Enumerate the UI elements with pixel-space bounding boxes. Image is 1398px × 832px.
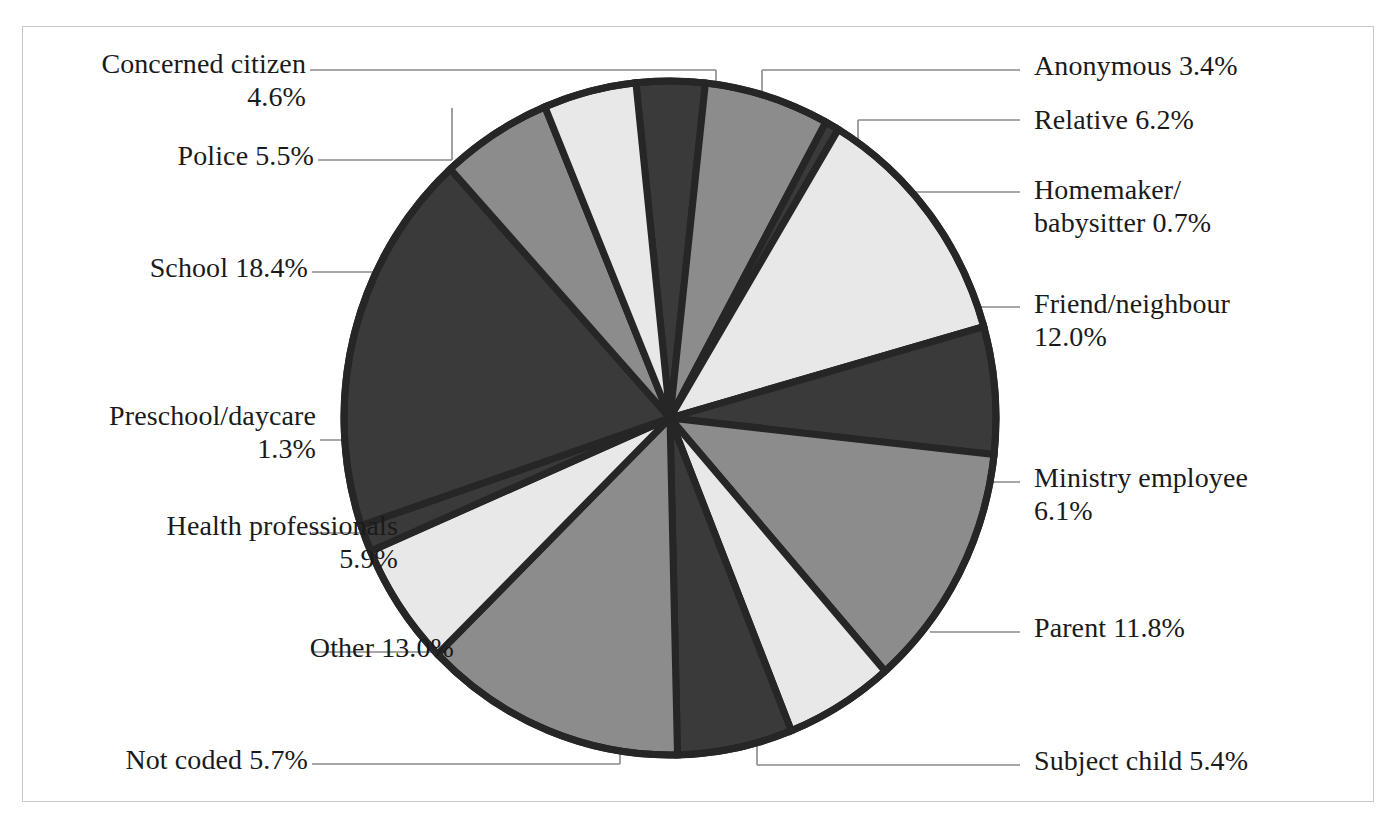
slice-label-anonymous: Anonymous 3.4% [1034, 50, 1364, 83]
slice-label-health: Health professionals 5.9% [58, 510, 398, 576]
pie-chart-figure: Concerned citizen 4.6% Police 5.5% Schoo… [0, 0, 1398, 832]
slice-label-ministry: Ministry employee 6.1% [1034, 462, 1364, 528]
slice-label-school: School 18.4% [8, 252, 308, 285]
slice-label-police: Police 5.5% [54, 140, 314, 173]
slice-label-subject-child: Subject child 5.4% [1034, 745, 1374, 778]
slice-label-not-coded: Not coded 5.7% [8, 744, 308, 777]
slice-label-homemaker: Homemaker/ babysitter 0.7% [1034, 174, 1364, 240]
slice-label-other: Other 13.0% [134, 632, 454, 665]
slice-label-parent: Parent 11.8% [1034, 612, 1364, 645]
slice-label-relative: Relative 6.2% [1034, 104, 1364, 137]
slice-label-concerned-citizen: Concerned citizen 4.6% [46, 48, 306, 114]
slice-label-preschool: Preschool/daycare 1.3% [0, 400, 316, 466]
slice-label-friend: Friend/neighbour 12.0% [1034, 288, 1364, 354]
